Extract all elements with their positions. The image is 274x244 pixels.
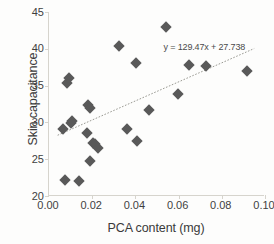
y-tick-label: 35 — [18, 80, 44, 91]
x-tick-label: 0.10 — [244, 200, 274, 211]
x-tick-mark — [92, 195, 93, 199]
x-tick-label: 0.04 — [114, 200, 154, 211]
y-tick-mark — [45, 196, 49, 197]
trendline — [58, 49, 255, 136]
x-tick-label: 0.08 — [201, 200, 241, 211]
y-tick-mark — [45, 49, 49, 50]
x-axis-title: PCA content (mg) — [48, 221, 264, 235]
trendline-equation-label: y = 129.47x + 27.738 — [164, 42, 246, 52]
x-tick-label: 0.00 — [28, 200, 68, 211]
y-tick-mark — [45, 86, 49, 87]
x-tick-mark — [265, 195, 266, 199]
y-tick-label: 45 — [18, 7, 44, 18]
scatter-chart-figure: Skin capacitance 202530354045 0.000.020.… — [0, 0, 274, 244]
x-tick-mark — [179, 195, 180, 199]
x-tick-mark — [222, 195, 223, 199]
y-tick-mark — [45, 122, 49, 123]
plot-area — [48, 12, 264, 196]
y-tick-label: 40 — [18, 43, 44, 54]
y-tick-label: 30 — [18, 117, 44, 128]
x-tick-label: 0.06 — [158, 200, 198, 211]
x-tick-label: 0.02 — [71, 200, 111, 211]
y-tick-mark — [45, 159, 49, 160]
y-tick-mark — [45, 12, 49, 13]
y-tick-label: 25 — [18, 154, 44, 165]
x-tick-mark — [135, 195, 136, 199]
